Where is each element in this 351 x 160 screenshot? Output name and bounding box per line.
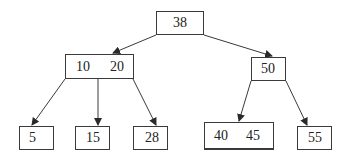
- key-40: 40: [214, 128, 228, 144]
- key-38: 38: [173, 15, 187, 31]
- leaf-15: 15: [75, 126, 110, 150]
- edge-50-to-55: [286, 81, 307, 125]
- key-15: 15: [86, 130, 100, 146]
- edge-10-20-to-5: [32, 79, 65, 125]
- key-20: 20: [110, 59, 124, 75]
- node-root: 38: [156, 11, 204, 35]
- key-45: 45: [246, 128, 260, 144]
- edge-root-to-10-20: [113, 35, 156, 53]
- node-50: 50: [251, 57, 286, 81]
- node-10-20: 10 20: [65, 54, 134, 79]
- key-10: 10: [76, 59, 90, 75]
- btree-diagram: 38 10 20 50 5 15 28 40 45 55: [0, 0, 351, 160]
- key-50: 50: [261, 61, 275, 77]
- leaf-5: 5: [19, 126, 54, 150]
- edge-root-to-50: [204, 35, 272, 56]
- key-5: 5: [29, 130, 36, 146]
- key-55: 55: [308, 130, 322, 146]
- edge-50-to-40-45: [239, 81, 251, 121]
- leaf-55: 55: [297, 126, 332, 150]
- leaf-40-45: 40 45: [204, 122, 274, 150]
- key-28: 28: [145, 130, 159, 146]
- leaf-28: 28: [133, 126, 168, 150]
- edge-10-20-to-28: [133, 79, 156, 125]
